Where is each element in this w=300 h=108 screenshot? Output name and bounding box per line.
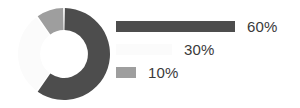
donut-chart-figure: 60% 30% 10% <box>0 0 300 108</box>
legend-item[interactable]: 10% <box>116 61 179 83</box>
legend-item-label: 60% <box>247 19 278 34</box>
legend-item[interactable]: 60% <box>116 15 278 37</box>
donut-svg <box>17 6 111 102</box>
legend-item-label: 10% <box>148 65 179 80</box>
donut-slice-group <box>18 8 110 100</box>
legend-swatch-bar <box>116 44 172 55</box>
donut-slice[interactable] <box>18 17 50 90</box>
legend-swatch-bar <box>116 21 235 32</box>
legend-swatch-bar <box>116 67 136 78</box>
donut-chart-graphic <box>17 6 111 102</box>
chart-legend: 60% 30% 10% <box>116 12 300 102</box>
legend-item[interactable]: 30% <box>116 38 215 60</box>
legend-item-label: 30% <box>184 42 215 57</box>
